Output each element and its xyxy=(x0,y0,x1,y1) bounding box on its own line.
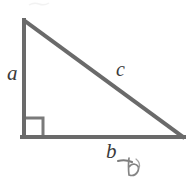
top-smudge-icon xyxy=(28,1,50,7)
label-side-b: b xyxy=(106,141,117,162)
handwritten-pencil-mark-icon xyxy=(116,156,152,177)
right-triangle-figure: a c b xyxy=(0,0,195,177)
triangle-svg xyxy=(0,0,195,177)
label-side-c: c xyxy=(116,59,125,79)
hypotenuse-c-line xyxy=(25,21,183,137)
label-side-a: a xyxy=(7,63,18,84)
right-angle-icon xyxy=(26,118,43,135)
